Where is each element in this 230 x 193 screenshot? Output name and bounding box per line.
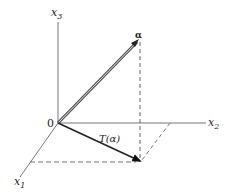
- alpha-label: α: [135, 30, 142, 40]
- vector-projection-diagram: x3 x2 x1 0 α T(α): [0, 0, 230, 193]
- x1-axis: [20, 123, 58, 177]
- dashed-parallel-x1: [142, 123, 170, 160]
- x2-axis-label: x2: [208, 116, 219, 131]
- alpha-vector: [58, 39, 139, 123]
- origin-label: 0: [47, 117, 54, 130]
- t-alpha-label: T(α): [99, 133, 120, 144]
- x1-axis-label: x1: [14, 175, 25, 190]
- x3-axis-label: x3: [51, 6, 62, 21]
